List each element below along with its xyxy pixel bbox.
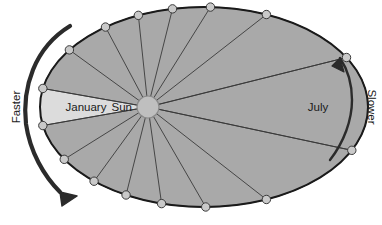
orbit-diagram-canvas: January Sun July Faster Slower (0, 0, 382, 225)
sun-body (137, 96, 159, 118)
orbit-position-marker (157, 199, 165, 207)
orbit-diagram: January Sun July Faster Slower (0, 0, 382, 225)
orbit-position-marker (168, 5, 176, 13)
orbit-position-marker (348, 146, 356, 154)
january-label: January (66, 101, 107, 113)
orbit-position-marker (206, 3, 214, 11)
orbit-position-marker (65, 46, 73, 54)
orbit-position-marker (39, 84, 47, 92)
orbit-position-marker (262, 10, 270, 18)
orbit-position-marker (342, 53, 350, 61)
orbit-position-marker (39, 121, 47, 129)
sun-label: Sun (112, 101, 132, 113)
orbit-position-marker (134, 11, 142, 19)
orbit-position-marker (202, 203, 210, 211)
faster-label: Faster (10, 91, 22, 124)
orbit-position-marker (262, 195, 270, 203)
orbit-position-marker (122, 191, 130, 199)
july-label: July (308, 101, 329, 113)
slower-label: Slower (366, 89, 378, 124)
orbit-position-marker (101, 23, 109, 31)
orbit-position-marker (90, 177, 98, 185)
orbit-position-marker (60, 155, 68, 163)
